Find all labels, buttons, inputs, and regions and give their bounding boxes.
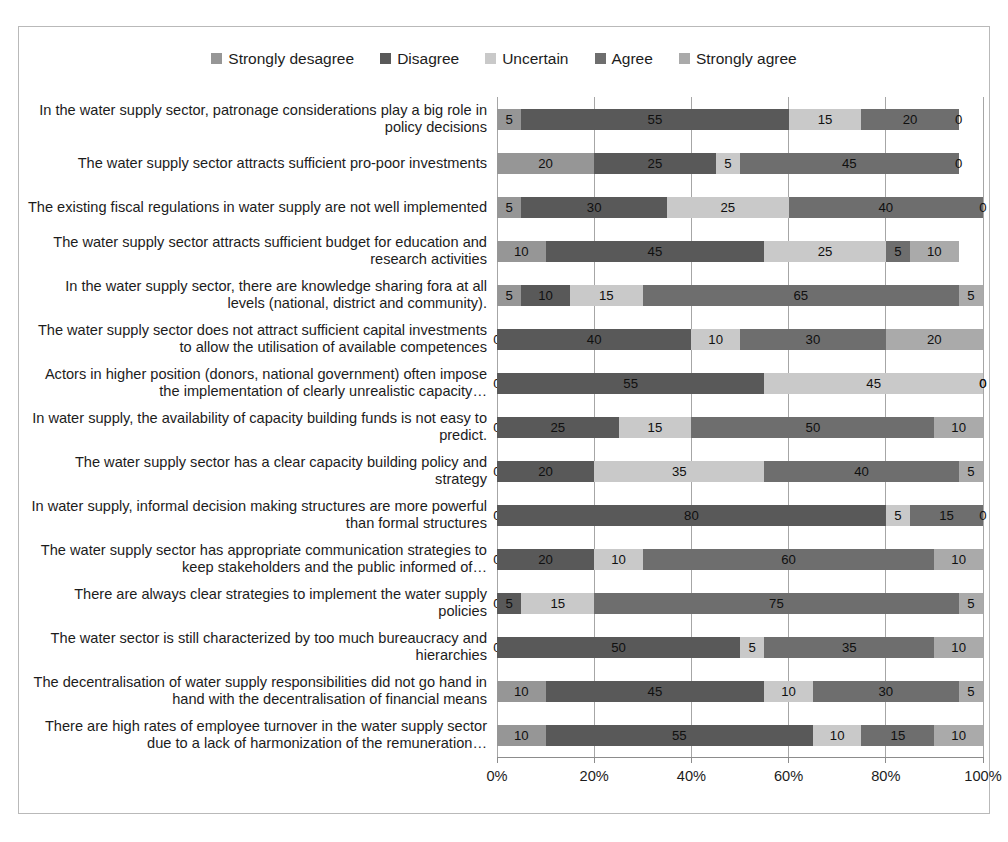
bar-segment[interactable]: 5: [497, 285, 521, 306]
bar-segment[interactable]: 10: [764, 681, 813, 702]
bar-segment[interactable]: 60: [643, 549, 935, 570]
bar-segment[interactable]: 65: [643, 285, 959, 306]
legend-label: Uncertain: [502, 51, 568, 67]
bar-segment[interactable]: 15: [521, 593, 594, 614]
bar-segment[interactable]: 25: [667, 197, 789, 218]
segment-value-label: 30: [878, 684, 893, 699]
segment-value-label: 80: [684, 508, 699, 523]
segment-value-label: 20: [538, 552, 553, 567]
bar-segment[interactable]: 5: [716, 153, 740, 174]
bar-segment[interactable]: 5: [497, 109, 521, 130]
segment-value-label: 5: [967, 464, 974, 479]
bar-segment[interactable]: 25: [594, 153, 716, 174]
x-axis-line: [497, 757, 983, 758]
segment-value-label: 20: [903, 112, 918, 127]
legend-item[interactable]: Strongly agree: [679, 51, 797, 67]
segment-value-label: 15: [939, 508, 954, 523]
segment-value-label: 75: [769, 596, 784, 611]
bar-segment[interactable]: 10: [934, 549, 983, 570]
bar-segment[interactable]: 10: [934, 725, 983, 746]
segment-value-label: 65: [793, 288, 808, 303]
bar-container: 20255450: [497, 141, 983, 185]
legend-item[interactable]: Agree: [595, 51, 653, 67]
bar-segment[interactable]: 15: [619, 417, 692, 438]
x-axis-tick-label: 100%: [964, 768, 1001, 784]
bar-segment[interactable]: 45: [546, 681, 765, 702]
category-label: There are always clear strategies to imp…: [27, 586, 497, 620]
segment-value-label: 25: [721, 200, 736, 215]
bar-segment[interactable]: 5: [740, 637, 764, 658]
bar-segment[interactable]: 45: [546, 241, 765, 262]
bar-segment[interactable]: 80: [497, 505, 886, 526]
bar-segment[interactable]: 25: [764, 241, 886, 262]
bar-segment[interactable]: 45: [740, 153, 959, 174]
category-label: The water supply sector attracts suffici…: [27, 155, 497, 172]
category-label: The water supply sector has a clear capa…: [27, 454, 497, 488]
bar-segment[interactable]: 20: [497, 549, 594, 570]
segment-value-label: 5: [724, 156, 731, 171]
bar-segment[interactable]: 5: [886, 241, 910, 262]
bar-segment[interactable]: 55: [521, 109, 788, 130]
bar-container: 0554500: [497, 361, 983, 405]
segment-value-label: 0: [955, 112, 962, 127]
legend-item[interactable]: Disagree: [380, 51, 459, 67]
bar-segment[interactable]: 30: [813, 681, 959, 702]
bar-segment[interactable]: 5: [497, 197, 521, 218]
bar-segment[interactable]: 5: [886, 505, 910, 526]
stacked-bar: 025155010: [497, 417, 983, 438]
bar-segment[interactable]: 10: [934, 417, 983, 438]
legend-item[interactable]: Strongly desagree: [211, 51, 354, 67]
bar-segment[interactable]: 30: [521, 197, 667, 218]
bar-segment[interactable]: 45: [764, 373, 983, 394]
segment-value-label: 5: [748, 640, 755, 655]
chart-legend: Strongly desagreeDisagreeUncertainAgreeS…: [19, 51, 989, 67]
bar-segment[interactable]: 20: [861, 109, 958, 130]
bar-segment[interactable]: 10: [594, 549, 643, 570]
segment-value-label: 25: [550, 420, 565, 435]
bar-segment[interactable]: 5: [497, 593, 521, 614]
bar-segment[interactable]: 15: [910, 505, 983, 526]
bar-segment[interactable]: 5: [959, 285, 983, 306]
bar-segment[interactable]: 55: [546, 725, 813, 746]
segment-value-label: 10: [514, 684, 529, 699]
bar-segment[interactable]: 40: [789, 197, 983, 218]
bar-container: 0515755: [497, 581, 983, 625]
bar-segment[interactable]: 55: [497, 373, 764, 394]
bar-segment[interactable]: 50: [691, 417, 934, 438]
bar-segment[interactable]: 40: [764, 461, 958, 482]
bar-segment[interactable]: 75: [594, 593, 959, 614]
bar-segment[interactable]: 50: [497, 637, 740, 658]
category-label: The water supply sector has appropriate …: [27, 542, 497, 576]
legend-item[interactable]: Uncertain: [485, 51, 568, 67]
stacked-bar: 0554500: [497, 373, 983, 394]
figure-frame: Strongly desagreeDisagreeUncertainAgreeS…: [18, 26, 990, 814]
segment-value-label: 10: [514, 728, 529, 743]
bar-container: 104510305: [497, 669, 983, 713]
bar-segment[interactable]: 5: [959, 461, 983, 482]
bar-segment[interactable]: 10: [497, 241, 546, 262]
bar-segment[interactable]: 5: [959, 593, 983, 614]
bar-segment[interactable]: 10: [813, 725, 862, 746]
bar-segment[interactable]: 40: [497, 329, 691, 350]
bar-segment[interactable]: 10: [934, 637, 983, 658]
stacked-bar: 020106010: [497, 549, 983, 570]
bar-segment[interactable]: 5: [959, 681, 983, 702]
bar-segment[interactable]: 20: [886, 329, 983, 350]
bar-segment[interactable]: 20: [497, 461, 594, 482]
bar-segment[interactable]: 10: [497, 681, 546, 702]
category-label: There are high rates of employee turnove…: [27, 718, 497, 752]
bar-segment[interactable]: 10: [521, 285, 570, 306]
bar-segment[interactable]: 15: [789, 109, 862, 130]
bar-segment[interactable]: 10: [691, 329, 740, 350]
bar-segment[interactable]: 35: [594, 461, 764, 482]
bar-segment[interactable]: 30: [740, 329, 886, 350]
bar-segment[interactable]: 10: [497, 725, 546, 746]
bar-segment[interactable]: 35: [764, 637, 934, 658]
segment-value-label: 5: [894, 508, 901, 523]
bar-segment[interactable]: 10: [910, 241, 959, 262]
segment-value-label: 10: [927, 244, 942, 259]
bar-segment[interactable]: 15: [861, 725, 934, 746]
bar-segment[interactable]: 20: [497, 153, 594, 174]
bar-segment[interactable]: 25: [497, 417, 619, 438]
bar-segment[interactable]: 15: [570, 285, 643, 306]
